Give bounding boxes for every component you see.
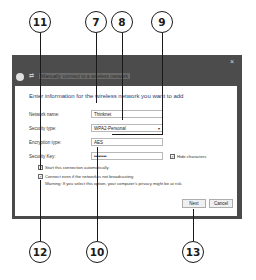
close-icon[interactable]: × [230,58,234,65]
leader-line-8 [122,33,123,120]
dialog-content: Enter information for the wireless netwo… [15,86,237,216]
encryption-type-select[interactable]: AES [91,138,163,146]
hide-characters-checkbox[interactable]: ✓ [170,154,175,159]
security-type-value: WPA2-Personal [94,126,126,131]
callout-12: 12 [29,241,51,263]
connect-not-broadcasting-checkbox[interactable]: ✓ [38,174,43,179]
security-type-select[interactable]: WPA2-Personal ▾ [91,124,163,132]
privacy-warning: Warning: If you select this option, your… [45,181,183,186]
leader-line-7 [96,33,97,103]
dialog-title: Manually connect to a wireless network [39,73,130,79]
network-name-input[interactable]: Thinknet [91,110,163,118]
callout-13: 13 [182,241,204,263]
dialog-heading: Enter information for the wireless netwo… [29,93,183,99]
connect-not-broadcasting-label: Connect even if the network is not broad… [45,174,133,179]
security-type-label: Security type: [29,126,56,131]
cancel-button[interactable]: Cancel [209,199,233,208]
network-icon: ⇄ [29,73,36,80]
back-arrow-icon[interactable] [16,73,24,81]
leader-line-13 [193,209,194,241]
callout-8: 8 [111,11,133,33]
leader-line-9-h [112,134,163,135]
callout-9: 9 [151,11,173,33]
callout-7: 7 [85,11,107,33]
leader-line-11 [40,33,41,170]
start-automatically-label: Start this connection automatically [45,165,109,170]
network-name-label: Network name: [29,112,59,117]
hide-characters-label: Hide characters [177,154,206,159]
wireless-network-dialog: × ⇄ Manually connect to a wireless netwo… [12,55,242,219]
next-button[interactable]: Next [182,199,206,208]
callout-11: 11 [29,11,51,33]
chevron-down-icon: ▾ [158,125,160,132]
leader-line-9-v [162,33,163,134]
callout-10: 10 [86,241,108,263]
leader-line-12 [40,180,41,241]
encryption-type-label: Encryption type: [29,140,61,145]
security-key-label: Security Key: [29,154,56,159]
title-bar: × ⇄ Manually connect to a wireless netwo… [12,55,242,86]
security-key-input[interactable]: •••••••• [91,152,163,160]
leader-line-10 [97,147,98,241]
